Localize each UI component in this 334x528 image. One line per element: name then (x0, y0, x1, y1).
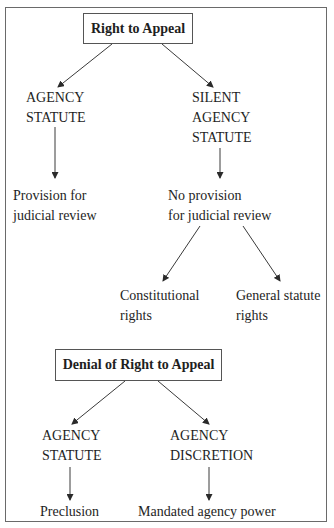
node-right-to-appeal-label: Right to Appeal (91, 21, 185, 37)
node-right-to-appeal: Right to Appeal (83, 13, 193, 44)
node-no-provision-for-judicial-review: No provision for judicial review (168, 186, 271, 226)
node-constitutional-rights: Constitutional rights (120, 286, 199, 326)
node-agency-statute-top: AGENCY STATUTE (26, 88, 86, 128)
node-general-statute-rights: General statute rights (236, 286, 320, 326)
node-denial-of-right-to-appeal: Denial of Right to Appeal (55, 349, 222, 381)
node-provision-for-judicial-review: Provision for judicial review (13, 186, 97, 226)
node-agency-statute-bottom: AGENCY STATUTE (42, 426, 102, 466)
node-denial-label: Denial of Right to Appeal (63, 357, 215, 373)
node-silent-agency-statute: SILENT AGENCY STATUTE (192, 88, 252, 148)
node-mandated-agency-power: Mandated agency power (138, 502, 276, 522)
node-agency-discretion: AGENCY DISCRETION (170, 426, 253, 466)
node-preclusion: Preclusion (40, 502, 99, 522)
